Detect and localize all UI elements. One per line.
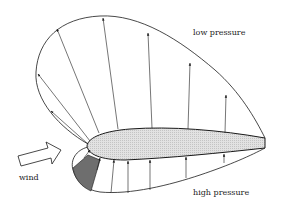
wind-label: wind <box>19 173 39 182</box>
low-pressure-label: low pressure <box>193 28 246 37</box>
wind-arrow-icon <box>18 142 61 166</box>
suction-arrow <box>148 33 152 128</box>
airfoil <box>87 128 265 160</box>
suction-arrow <box>188 63 190 129</box>
suction-arrow <box>38 74 90 141</box>
suction-arrow <box>103 18 118 129</box>
suction-arrow <box>57 29 99 133</box>
stagnation-region <box>73 155 100 191</box>
pressure-arrow <box>111 160 114 193</box>
high-pressure-label: high pressure <box>193 188 249 197</box>
suction-arrow <box>225 95 226 133</box>
airfoil-pressure-diagram: low pressure high pressure wind <box>0 0 285 206</box>
suction-arrow <box>51 111 88 144</box>
